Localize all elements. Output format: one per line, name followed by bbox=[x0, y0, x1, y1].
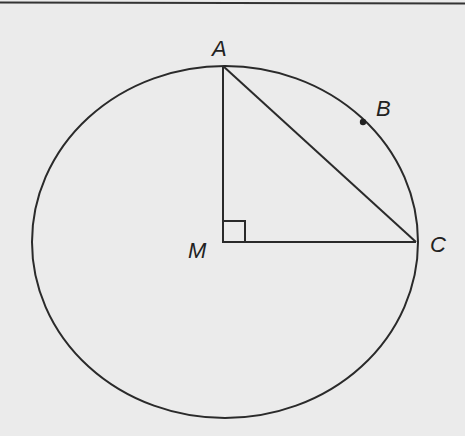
segment-ac bbox=[223, 66, 416, 242]
label-m: M bbox=[188, 238, 207, 263]
right-angle-marker bbox=[223, 221, 245, 242]
top-border-line bbox=[0, 3, 465, 4]
point-b-dot bbox=[360, 119, 366, 125]
label-a: A bbox=[210, 36, 227, 61]
geometry-diagram: A B C M bbox=[0, 0, 465, 436]
label-b: B bbox=[376, 96, 391, 121]
label-c: C bbox=[430, 232, 446, 257]
